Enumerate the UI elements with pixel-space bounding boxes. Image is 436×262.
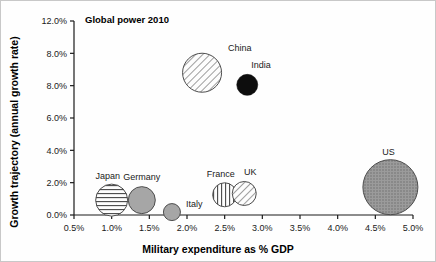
x-axis-title: Military expenditure as % GDP [1, 243, 435, 255]
bubble-circle[interactable] [363, 160, 418, 215]
x-tick-label: 0.5% [64, 223, 85, 233]
bubble-circle[interactable] [237, 74, 258, 95]
bubble-circle[interactable] [128, 187, 155, 214]
x-tick-label: 3.5% [290, 223, 311, 233]
bubble-label: China [228, 43, 252, 53]
bubble-label: India [251, 60, 271, 70]
bubble-point[interactable]: France [207, 169, 237, 207]
y-tick-label: 4.0% [46, 146, 67, 156]
bubble-circle[interactable] [96, 184, 128, 216]
y-tick-label: 2.0% [46, 178, 67, 188]
x-tick-label: 4.0% [327, 223, 348, 233]
y-tick-label: 8.0% [46, 81, 67, 91]
bubble-label: Italy [186, 199, 203, 209]
bubble-point[interactable]: Germany [123, 172, 161, 214]
x-tick-label: 2.5% [214, 223, 235, 233]
bubble-label: Germany [123, 172, 161, 182]
x-tick-label: 3.0% [252, 223, 273, 233]
bubble-circle[interactable] [232, 181, 256, 205]
y-tick-label: 0.0% [46, 210, 67, 220]
plot-area: 0.0%2.0%4.0%6.0%8.0%8.0%12.0%0.5%1.0%1.5… [1, 1, 436, 262]
bubble-label: US [382, 147, 395, 157]
bubble-circle[interactable] [183, 53, 222, 92]
x-tick-label: 1.0% [101, 223, 122, 233]
bubble-label: UK [244, 167, 257, 177]
bubble-point[interactable]: UK [232, 167, 256, 205]
bubble-point[interactable]: Italy [163, 199, 203, 221]
bubble-circle[interactable] [163, 204, 180, 221]
x-tick-label: 4.5% [365, 223, 386, 233]
y-tick-label: 6.0% [46, 113, 67, 123]
bubble-label: Japan [95, 171, 120, 181]
bubble-point[interactable]: India [237, 60, 271, 96]
bubble-point[interactable]: US [363, 147, 418, 215]
bubble-label: France [207, 169, 235, 179]
y-tick-label: 12.0% [41, 16, 67, 26]
chart-figure: Growth trajectory (annual growth rate) G… [0, 0, 436, 262]
x-tick-label: 2.0% [177, 223, 198, 233]
x-tick-label: 1.5% [139, 223, 160, 233]
x-tick-label: 5.0% [403, 223, 424, 233]
y-tick-label: 8.0% [46, 49, 67, 59]
